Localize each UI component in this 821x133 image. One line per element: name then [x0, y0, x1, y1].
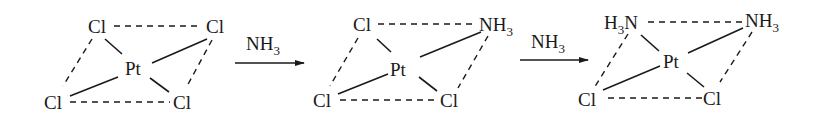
atom-cl-top-left: Cl [88, 16, 106, 37]
bond-pt-nh3-tr [688, 28, 743, 53]
atom-cl-bottom-left: Cl [313, 90, 331, 111]
atom-cl-bottom-right: Cl [173, 92, 191, 113]
molecule-1-ptcl4: Cl Cl Pt Cl Cl [44, 16, 224, 113]
atom-pt: Pt [390, 59, 407, 80]
atom-h3n-top-left: H3N [604, 12, 638, 37]
atom-cl-bottom-right: Cl [440, 90, 458, 111]
reagent-label: NH3 [531, 31, 565, 56]
atom-cl-bottom-left: Cl [578, 89, 596, 110]
dashed-edge-right [458, 36, 488, 88]
bond-pt-cl-br [419, 77, 437, 91]
reagent-label: NH3 [246, 33, 280, 58]
atom-pt: Pt [663, 51, 680, 72]
bond-pt-cl-bl [70, 77, 118, 96]
bond-pt-cl-br [150, 78, 169, 92]
bond-pt-cl-tl [377, 39, 391, 52]
dashed-edge-left [594, 34, 628, 88]
bond-pt-nh3-tl [641, 35, 659, 51]
molecule-2-ptcl3nh3: Cl NH3 Pt Cl Cl [313, 14, 513, 111]
reaction-arrow-2: NH3 [520, 31, 588, 60]
reaction-scheme: Cl Cl Pt Cl Cl NH3 Cl NH3 Pt Cl Cl NH3 [0, 0, 821, 133]
atom-cl-bottom-left: Cl [44, 92, 62, 113]
bond-pt-cl-tl [105, 39, 122, 54]
atom-nh3-top-right: NH3 [479, 14, 513, 39]
atom-nh3-top-right: NH3 [745, 10, 779, 35]
dashed-edge-left [330, 38, 358, 86]
atom-pt: Pt [125, 58, 142, 79]
bond-pt-nh3 [420, 32, 481, 57]
dashed-edge-left [63, 39, 92, 86]
bond-pt-cl-bl [338, 74, 388, 94]
atom-cl-top-right: Cl [206, 16, 224, 37]
atom-cl-top-left: Cl [353, 14, 371, 35]
molecule-3-ptcl2nh3-2: H3N NH3 Pt Cl Cl [578, 10, 779, 110]
atom-cl-bottom-right: Cl [703, 88, 721, 109]
bond-pt-cl-br [687, 73, 704, 87]
bond-pt-cl-bl [603, 66, 660, 90]
reaction-arrow-1: NH3 [235, 33, 304, 63]
bond-pt-cl-tr [152, 39, 207, 63]
dashed-edge-right [720, 32, 752, 82]
